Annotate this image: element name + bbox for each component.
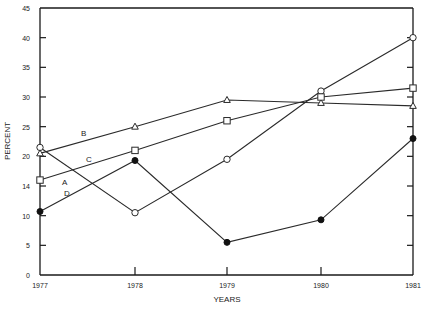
x-tick-label: 1978 — [127, 282, 143, 289]
y-tick-label: 14 — [22, 183, 30, 190]
marker-open-square — [318, 94, 324, 100]
marker-open-square — [224, 118, 230, 124]
y-tick-label: 25 — [22, 124, 30, 131]
x-tick-label: 1980 — [313, 282, 329, 289]
marker-filled-circle — [318, 217, 324, 223]
marker-open-triangle — [224, 96, 231, 102]
y-tick-label: 40 — [22, 35, 30, 42]
marker-filled-circle — [224, 239, 230, 245]
marker-filled-circle — [132, 157, 138, 163]
marker-open-circle — [224, 156, 230, 162]
y-tick-label: 0 — [26, 272, 30, 279]
y-tick-label: 10 — [22, 213, 30, 220]
series-line-A — [40, 38, 413, 213]
series-label-A: A — [62, 178, 68, 187]
x-axis-label: YEARS — [213, 295, 240, 304]
y-tick-label: 35 — [22, 64, 30, 71]
x-tick-label: 1981 — [405, 282, 421, 289]
marker-open-square — [410, 85, 416, 91]
series-label-C: C — [86, 155, 92, 164]
y-tick-label: 30 — [22, 94, 30, 101]
marker-filled-circle — [410, 136, 416, 142]
marker-open-circle — [410, 34, 416, 40]
axes: 05101420253035404519771978197919801981 — [22, 5, 421, 289]
marker-open-square — [37, 177, 43, 183]
series-labels: ABCD — [62, 129, 92, 198]
marker-open-square — [132, 147, 138, 153]
marker-open-circle — [132, 210, 138, 216]
series-label-B: B — [81, 129, 86, 138]
y-axis-label: PERCENT — [3, 122, 12, 160]
series-lines — [37, 34, 417, 245]
line-chart: 05101420253035404519771978197919801981 A… — [0, 0, 427, 309]
x-tick-label: 1977 — [32, 282, 48, 289]
y-tick-label: 45 — [22, 5, 30, 12]
series-line-B — [40, 100, 413, 153]
y-tick-label: 5 — [26, 242, 30, 249]
x-tick-label: 1979 — [219, 282, 235, 289]
series-line-D — [40, 139, 413, 243]
series-label-D: D — [64, 189, 70, 198]
y-tick-label: 20 — [22, 153, 30, 160]
marker-filled-circle — [37, 209, 43, 215]
